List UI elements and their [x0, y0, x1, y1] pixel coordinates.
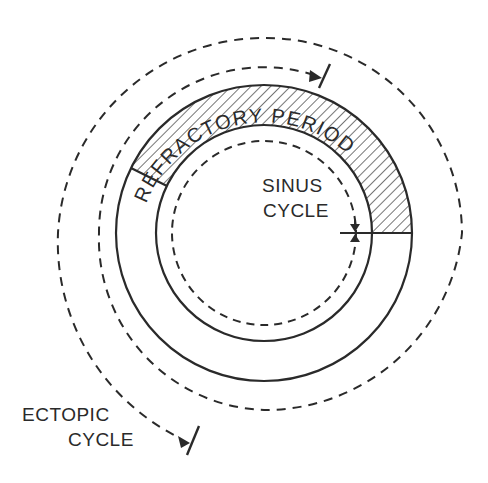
sinus-cycle-label-line1: SINUS — [262, 175, 323, 196]
cycle-diagram: REFRACTORY PERIOD SINUS CYCLE ECTOPIC CY… — [0, 0, 488, 483]
inner-solid-circle — [156, 125, 372, 341]
sinus-cycle-label-line2: CYCLE — [263, 200, 329, 221]
ectopic-arrow-stop-icon — [178, 426, 199, 455]
ectopic-cycle-label-line1: ECTOPIC — [22, 404, 110, 425]
top-arrow-stop-icon — [309, 64, 330, 88]
ectopic-cycle-label-line2: CYCLE — [68, 429, 134, 450]
sinus-marker — [340, 219, 371, 242]
sinus-cycle-dashed-circle — [172, 141, 356, 325]
